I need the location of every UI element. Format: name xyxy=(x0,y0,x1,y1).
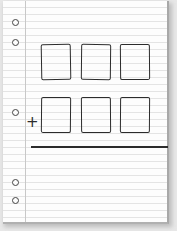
digit-box-row1-col3 xyxy=(120,44,150,80)
punch-hole-icon xyxy=(12,19,19,26)
digit-box-row2-col3 xyxy=(120,97,150,133)
digit-box-row1-col2 xyxy=(81,44,111,80)
margin-line xyxy=(25,1,26,222)
punch-hole-icon xyxy=(12,197,19,204)
punch-hole-icon xyxy=(12,39,19,46)
punch-hole-icon xyxy=(12,179,19,186)
digit-box-row2-col1 xyxy=(41,97,71,133)
punch-hole-icon xyxy=(12,109,19,116)
plus-sign: + xyxy=(26,115,39,130)
digit-box-row1-col1 xyxy=(41,44,72,81)
sum-line xyxy=(31,146,168,148)
digit-box-row2-col2 xyxy=(81,97,111,133)
notebook-paper: + xyxy=(3,1,169,224)
